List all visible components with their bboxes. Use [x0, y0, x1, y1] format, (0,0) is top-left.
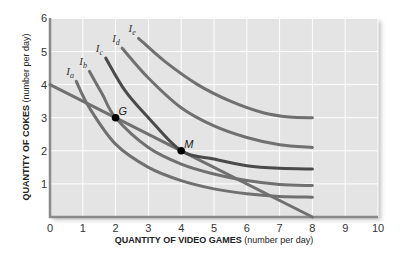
- point-label-m: M: [184, 138, 194, 150]
- y-tick: 5: [41, 46, 47, 58]
- y-tick: 2: [41, 145, 47, 157]
- x-tick: 3: [145, 222, 151, 234]
- x-tick: 10: [372, 222, 384, 234]
- x-tick-labels: 012345678910: [47, 222, 384, 234]
- y-tick: 4: [41, 79, 47, 91]
- x-tick: 8: [309, 222, 315, 234]
- y-tick-labels: 123456: [41, 12, 47, 190]
- x-tick: 2: [113, 222, 119, 234]
- x-tick: 1: [80, 222, 86, 234]
- x-tick: 5: [211, 222, 217, 234]
- y-axis-title: QUANTITY OF COKES (number per day): [21, 34, 31, 201]
- y-tick: 1: [41, 178, 47, 190]
- x-tick: 0: [47, 222, 53, 234]
- point-label-g: G: [119, 105, 128, 117]
- x-tick: 7: [277, 222, 283, 234]
- x-tick: 6: [244, 222, 250, 234]
- indifference-curve-chart: 012345678910 123456 IaIbIcIdIe GM QUANTI…: [0, 0, 410, 261]
- y-tick: 6: [41, 12, 47, 24]
- x-tick: 4: [178, 222, 184, 234]
- x-tick: 9: [342, 222, 348, 234]
- y-tick: 3: [41, 112, 47, 124]
- x-axis-title: QUANTITY OF VIDEO GAMES (number per day): [115, 235, 313, 245]
